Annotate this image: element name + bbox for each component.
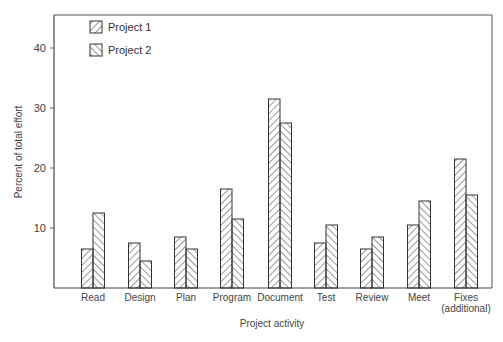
bar-group xyxy=(408,201,431,288)
legend-item-project-2: Project 2 xyxy=(90,44,151,56)
legend: Project 1 Project 2 xyxy=(90,21,151,56)
x-category-label: Plan xyxy=(176,292,196,303)
bar-group xyxy=(361,237,384,288)
bar-group xyxy=(221,189,244,288)
legend-label-project-1: Project 1 xyxy=(108,21,151,33)
bar-group xyxy=(455,159,478,288)
x-category-label: Design xyxy=(124,292,155,303)
bar-project-1 xyxy=(221,189,233,288)
bar-group xyxy=(82,213,105,288)
bar-project-2 xyxy=(93,213,105,288)
bar-project-1 xyxy=(269,99,281,288)
x-category-label: Meet xyxy=(408,292,430,303)
x-axis-title: Project activity xyxy=(240,318,304,329)
bar-groups xyxy=(82,99,478,288)
bar-project-1 xyxy=(315,243,327,288)
y-tick-label: 30 xyxy=(34,102,46,114)
legend-item-project-1: Project 1 xyxy=(90,21,151,33)
bar-group xyxy=(315,225,338,288)
x-category-label: Document xyxy=(257,292,303,303)
y-axis-ticks: 10203040 xyxy=(34,42,54,234)
bar-project-2 xyxy=(280,123,292,288)
bar-group xyxy=(129,243,152,288)
legend-label-project-2: Project 2 xyxy=(108,44,151,56)
bar-project-2 xyxy=(140,261,152,288)
x-axis-category-labels: ReadDesignPlanProgramDocumentTestReviewM… xyxy=(81,292,491,314)
bar-project-1 xyxy=(408,225,420,288)
bar-project-2 xyxy=(466,195,478,288)
x-category-label: Review xyxy=(356,292,390,303)
bar-group xyxy=(175,237,198,288)
bar-project-1 xyxy=(455,159,467,288)
y-tick-label: 40 xyxy=(34,42,46,54)
x-category-label: (additional) xyxy=(441,303,490,314)
bar-chart: 10203040 ReadDesignPlanProgramDocumentTe… xyxy=(0,0,503,342)
bar-project-1 xyxy=(175,237,187,288)
bar-project-2 xyxy=(232,219,244,288)
bar-project-2 xyxy=(419,201,431,288)
bar-project-1 xyxy=(361,249,373,288)
x-category-label: Test xyxy=(317,292,336,303)
bar-project-1 xyxy=(129,243,141,288)
bar-project-2 xyxy=(372,237,384,288)
legend-swatch-project-1 xyxy=(90,21,102,33)
bar-project-1 xyxy=(82,249,94,288)
bar-project-2 xyxy=(326,225,338,288)
legend-swatch-project-2 xyxy=(90,44,102,56)
y-axis-title: Percent of total effort xyxy=(13,105,24,198)
y-tick-label: 10 xyxy=(34,222,46,234)
y-tick-label: 20 xyxy=(34,162,46,174)
bar-group xyxy=(269,99,292,288)
bar-project-2 xyxy=(186,249,198,288)
x-category-label: Read xyxy=(81,292,105,303)
x-category-label: Program xyxy=(213,292,251,303)
x-category-label: Fixes xyxy=(454,292,478,303)
